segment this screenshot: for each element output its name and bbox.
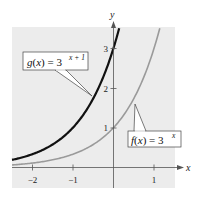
x-tick-label: −2	[28, 175, 38, 185]
plot-background	[12, 27, 175, 188]
exponential-graph: x y −2 −1 1 1 2 3 g(x) = 3 x + 1 f(x) = …	[0, 0, 199, 200]
y-tick-label: 2	[104, 84, 109, 94]
x-tick-label: −1	[68, 175, 78, 185]
y-tick-label: 3	[104, 44, 109, 54]
g-label-text: g(x) = 3	[27, 56, 62, 69]
f-label-text: f(x) = 3	[131, 134, 164, 147]
x-tick-label: 1	[152, 175, 157, 185]
y-tick-label: 1	[104, 123, 109, 133]
f-label-exponent: x	[171, 131, 176, 140]
y-axis-label: y	[109, 9, 115, 20]
x-axis-label: x	[185, 162, 191, 173]
x-axis-arrow-icon	[177, 165, 184, 170]
g-label-exponent: x + 1	[68, 53, 85, 62]
y-axis-arrow-icon	[111, 21, 116, 28]
